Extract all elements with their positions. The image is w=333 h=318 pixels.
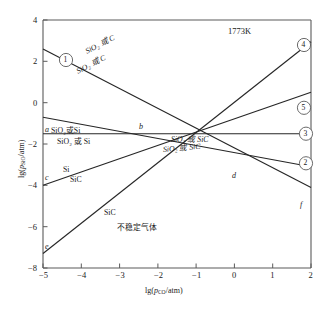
region-label-sic-lower: SiC (104, 209, 116, 217)
region-label-sic: SiC (70, 176, 82, 184)
y-axis-title-var: p (17, 165, 26, 169)
point-label-e: e (45, 243, 49, 251)
x-tick-label-1: −4 (77, 271, 86, 280)
y-tick-label-neg4: −4 (28, 181, 37, 190)
x-axis-ticks (43, 264, 311, 269)
point-label-c: c (45, 174, 49, 182)
circled-marker-label-2: 2 (304, 159, 308, 167)
point-label-f: f (300, 201, 302, 209)
y-tick-label-neg8: −8 (28, 264, 37, 273)
y-axis-ticks (43, 20, 48, 268)
y-axis-title: lg(pSiO/atm) (18, 140, 27, 179)
x-tick-label-2: −3 (116, 271, 125, 280)
temperature-annotation: 1773K (228, 27, 251, 36)
y-tick-label-neg2: −2 (28, 140, 37, 149)
x-tick-label-7: 2 (309, 271, 313, 280)
x-tick-label-6: 1 (270, 271, 274, 280)
point-label-b: b (139, 123, 143, 131)
circled-marker-label-4: 4 (302, 41, 306, 49)
y-tick-label-4: 4 (33, 16, 37, 25)
region-label-si: Si (63, 166, 70, 174)
y-tick-label-2: 2 (33, 57, 37, 66)
region-label-sio2-or-si-upper: SiO₂或Si (51, 127, 80, 135)
x-axis-title-pre: lg( (145, 286, 154, 295)
x-tick-label-4: −1 (192, 271, 201, 280)
y-tick-label-0: 0 (33, 99, 37, 108)
x-tick-label-3: −2 (154, 271, 163, 280)
x-axis-title-post: /atm) (166, 286, 183, 295)
circled-marker-label-3: 3 (304, 130, 308, 138)
point-label-d: d (232, 172, 236, 180)
x-axis-title: lg(pCO/atm) (145, 287, 183, 296)
x-tick-label-5: 0 (232, 271, 236, 280)
region-label-unstable-gas: 不稳定气体 (117, 224, 157, 232)
chart-figure: −5 −4 −3 −2 −1 0 1 2 4 2 0 −2 −4 −6 −8 l… (0, 0, 333, 318)
circled-marker-label-5: 5 (302, 104, 306, 112)
y-axis-title-pre: lg( (17, 169, 26, 178)
circled-marker-label-1: 1 (64, 56, 68, 64)
point-label-a: a (45, 126, 49, 134)
y-axis-title-post: /atm) (17, 140, 26, 157)
x-axis-title-sub: CO (158, 289, 166, 295)
y-axis-title-sub: SiO (20, 156, 26, 165)
y-tick-label-neg6: −6 (28, 223, 37, 232)
region-label-sio2-or-si-lower: SiO₂ 或 Si (57, 138, 90, 146)
chart-plot-svg (0, 0, 333, 318)
x-tick-label-0: −5 (39, 271, 48, 280)
